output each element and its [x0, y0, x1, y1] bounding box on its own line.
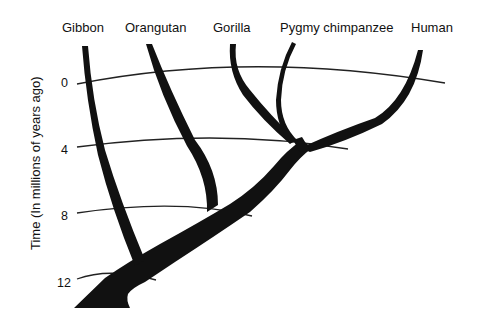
- tree-branches: [74, 42, 423, 308]
- phylogenetic-tree-graphic: [0, 0, 480, 327]
- branch-human: [300, 50, 423, 152]
- time-line-0: [77, 67, 445, 84]
- branch-gibbon: [82, 46, 145, 266]
